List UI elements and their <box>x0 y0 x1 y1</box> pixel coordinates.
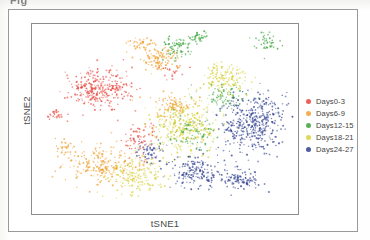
legend-item-label: Days0-3 <box>316 97 345 106</box>
legend-marker-icon <box>306 123 311 128</box>
legend-marker-icon <box>306 111 311 116</box>
cropped-caption-text: Fig <box>10 0 62 7</box>
legend-item-days12-15[interactable]: Days12-15 <box>306 120 368 132</box>
legend-item-days24-27[interactable]: Days24-27 <box>306 144 368 156</box>
legend-item-label: Days12-15 <box>316 121 354 130</box>
tsne-figure: Fig tSNE1 tSNE2 Days0-3Days6-9Days12-15D… <box>0 0 370 240</box>
scatter-points-layer <box>32 24 298 214</box>
legend-item-days6-9[interactable]: Days6-9 <box>306 108 368 120</box>
legend-marker-icon <box>306 135 311 140</box>
legend-marker-icon <box>306 99 311 104</box>
plot-panel <box>31 23 299 215</box>
y-axis-label: tSNE2 <box>21 81 32 141</box>
legend-item-label: Days18-21 <box>316 133 354 142</box>
legend-marker-icon <box>306 147 311 152</box>
x-axis-label: tSNE1 <box>31 218 299 229</box>
figure-outer-frame: tSNE1 tSNE2 Days0-3Days6-9Days12-15Days1… <box>8 9 358 232</box>
legend-item-days0-3[interactable]: Days0-3 <box>306 96 368 108</box>
legend-item-days18-21[interactable]: Days18-21 <box>306 132 368 144</box>
legend: Days0-3Days6-9Days12-15Days18-21Days24-2… <box>306 96 368 156</box>
legend-item-label: Days6-9 <box>316 109 345 118</box>
cropped-caption-label: Fig <box>10 0 62 6</box>
legend-item-label: Days24-27 <box>316 145 354 154</box>
